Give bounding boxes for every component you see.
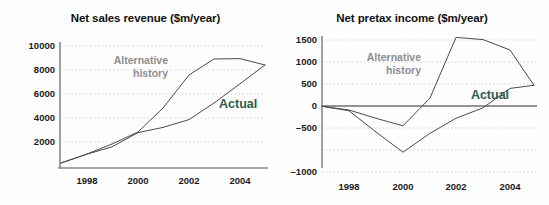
x-tick-label: 2002: [178, 175, 199, 186]
series-line-actual: [61, 65, 265, 163]
y-tick-label: 8000: [34, 64, 55, 75]
y-tick-label: 0: [312, 100, 317, 111]
x-tick-label: 2004: [229, 175, 251, 186]
x-tick-label: 2002: [445, 181, 466, 192]
y-tick-label: 6000: [34, 88, 55, 99]
y-tick-labels-net-pretax-income: 1500 1000 500 0 –500 –1000: [291, 34, 317, 177]
series-label-alternative-history-line1: Alternative: [114, 54, 168, 66]
series-label-alternative-history-line1: Alternative: [367, 51, 421, 63]
series-label-alternative-history-line2: history: [133, 67, 168, 79]
plot-area-net-pretax-income: 1500 1000 500 0 –500 –1000 1998 2000 200…: [275, 0, 549, 205]
y-tick-label: 4000: [34, 112, 55, 123]
x-tick-label: 2004: [499, 181, 521, 192]
x-tick-label: 1998: [338, 181, 359, 192]
y-tick-label: –500: [296, 122, 317, 133]
series-label-alternative-history: Alternative history: [114, 54, 168, 79]
y-tick-label: 1000: [296, 56, 317, 67]
series-line-alternative-history: [323, 37, 534, 125]
chart-panel-net-sales-revenue: Net sales revenue ($m/year) 10000 8000 6…: [0, 0, 275, 205]
chart-panel-net-pretax-income: Net pretax income ($m/year) 1500 1000 50…: [275, 0, 549, 205]
series-label-alternative-history: Alternative history: [367, 51, 421, 76]
series-label-alternative-history-line2: history: [386, 64, 421, 76]
y-tick-label: –1000: [291, 166, 317, 177]
y-tick-label: 500: [301, 78, 317, 89]
series-label-actual: Actual: [219, 97, 257, 111]
y-tick-label: 10000: [29, 40, 55, 51]
series-label-actual: Actual: [471, 88, 509, 102]
y-tick-label: 2000: [34, 136, 55, 147]
x-tick-labels-net-sales-revenue: 1998 2000 2002 2004: [76, 175, 251, 186]
x-tick-label: 1998: [76, 175, 97, 186]
two-panel-line-chart-figure: Net sales revenue ($m/year) 10000 8000 6…: [0, 0, 549, 205]
plot-area-net-sales-revenue: 10000 8000 6000 4000 2000 1998 2000 2002…: [0, 0, 275, 205]
x-tick-label: 2000: [127, 175, 148, 186]
x-tick-labels-net-pretax-income: 1998 2000 2002 2004: [338, 181, 521, 192]
y-tick-labels-net-sales-revenue: 10000 8000 6000 4000 2000: [29, 40, 55, 147]
x-tick-label: 2000: [392, 181, 413, 192]
y-tick-label: 1500: [296, 34, 317, 45]
